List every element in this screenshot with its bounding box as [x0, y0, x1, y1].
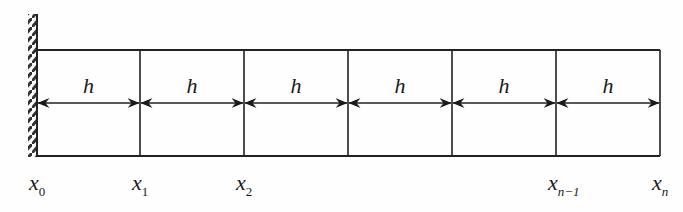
cell-5: h [557, 73, 659, 103]
node-label: xn [651, 170, 668, 199]
cell-4: h [453, 73, 555, 103]
node-labels: x0x1x2xn−1xn [28, 170, 668, 199]
wall-hatch [28, 14, 37, 157]
cell-0: h [38, 73, 139, 103]
cell-width-label: h [291, 73, 302, 98]
cell-width-label: h [603, 73, 614, 98]
cell-1: h [141, 73, 243, 103]
cell-width-label: h [499, 73, 510, 98]
node-label: x0 [28, 170, 45, 199]
cell-width-label: h [395, 73, 406, 98]
diagram-canvas: hhhhhh x0x1x2xn−1xn [0, 0, 683, 212]
cell-width-label: h [83, 73, 94, 98]
node-label: x1 [131, 170, 148, 199]
node-label: x2 [235, 170, 252, 199]
fixed-wall [28, 14, 37, 157]
cell-width-label: h [187, 73, 198, 98]
cell-2: h [245, 73, 347, 103]
grid-diagram: hhhhhh x0x1x2xn−1xn [0, 0, 683, 212]
cell-3: h [349, 73, 451, 103]
node-label: xn−1 [547, 170, 580, 199]
